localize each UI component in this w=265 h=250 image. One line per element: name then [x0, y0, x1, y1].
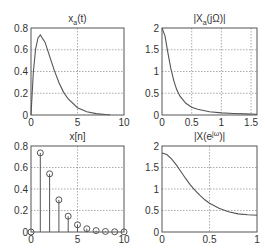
- x-tick-label: 0: [159, 117, 165, 128]
- data-curve: [162, 28, 257, 114]
- x-tick-label: 5: [75, 117, 81, 128]
- x-tick-label: 10: [118, 117, 130, 128]
- y-tick-label: 0.8: [14, 141, 28, 152]
- y-tick-label: 0.5: [145, 88, 159, 99]
- y-tick-label: 0: [22, 110, 28, 121]
- x-tick-label: 10: [118, 234, 130, 245]
- plot-xa-t: 051000.20.40.60.8xa(t): [14, 13, 130, 128]
- data-curve: [31, 35, 110, 115]
- x-tick-label: 0.5: [203, 234, 217, 245]
- y-tick-label: 0: [153, 227, 159, 238]
- axes-frame: [162, 28, 257, 115]
- x-tick-label: 0: [28, 234, 34, 245]
- y-tick-label: 2: [153, 23, 159, 34]
- y-tick-label: 0.5: [145, 205, 159, 216]
- y-tick-label: 1.5: [145, 162, 159, 173]
- y-tick-label: 0.6: [14, 44, 28, 55]
- x-tick-label: 1: [219, 117, 225, 128]
- x-tick-label: 1.5: [244, 117, 258, 128]
- y-tick-label: 1.5: [145, 44, 159, 55]
- y-tick-label: 0.4: [14, 66, 28, 77]
- y-tick-label: 0.6: [14, 162, 28, 173]
- y-tick-label: 0.4: [14, 184, 28, 195]
- y-tick-label: 1: [153, 66, 159, 77]
- plot-title: x[n]: [69, 131, 85, 142]
- y-tick-label: 0: [153, 110, 159, 121]
- x-tick-label: 1: [254, 234, 260, 245]
- plot-Xa-jomega: 00.511.500.511.52|Xa(jΩ)|: [145, 13, 258, 128]
- plot-title: |X(ejω)|: [194, 130, 225, 142]
- plot-X-ejw: 00.5100.511.52|X(ejω)|: [145, 130, 260, 245]
- y-tick-label: 1: [153, 184, 159, 195]
- plot-title: |Xa(jΩ)|: [193, 13, 225, 26]
- figure-canvas: 051000.20.40.60.8xa(t) 00.511.500.511.52…: [0, 0, 265, 250]
- y-tick-label: 0.2: [14, 88, 28, 99]
- plot-x-n-stem: 051000.20.40.60.8x[n]: [14, 131, 130, 245]
- x-tick-label: 0.5: [185, 117, 199, 128]
- x-tick-label: 0: [159, 234, 165, 245]
- y-tick-label: 0: [22, 227, 28, 238]
- x-tick-label: 0: [28, 117, 34, 128]
- y-tick-label: 0.8: [14, 23, 28, 34]
- x-tick-label: 5: [75, 234, 81, 245]
- plot-title: xa(t): [68, 13, 86, 26]
- y-tick-label: 2: [153, 141, 159, 152]
- y-tick-label: 0.2: [14, 205, 28, 216]
